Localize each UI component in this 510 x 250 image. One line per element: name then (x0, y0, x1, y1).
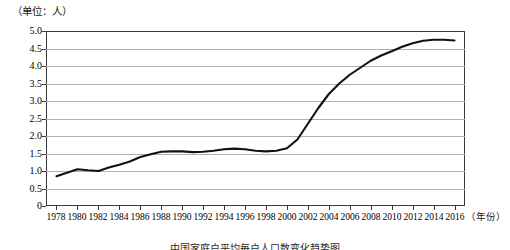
x-tick-label: 1998 (257, 212, 276, 223)
x-tick-mark (308, 206, 309, 210)
gridline (46, 119, 465, 120)
line-chart: （单位：人） 00.51.01.52.02.53.03.54.04.55.0 1… (0, 0, 510, 250)
x-axis-title: （年份） (466, 212, 506, 223)
x-tick-label: 2004 (320, 212, 339, 223)
x-tick-label: 2010 (383, 212, 402, 223)
x-tick-label: 2002 (299, 212, 318, 223)
x-tick-label: 2008 (362, 212, 381, 223)
x-tick-mark (455, 206, 456, 210)
x-tick-label: 1992 (194, 212, 213, 223)
y-tick-label: 1.0 (8, 166, 42, 176)
y-tick-label: 2.5 (8, 114, 42, 124)
x-tick-mark (245, 206, 246, 210)
y-tick-mark (42, 31, 46, 32)
gridline (46, 66, 465, 67)
x-tick-label: 1990 (173, 212, 192, 223)
x-tick-mark (56, 206, 57, 210)
x-tick-mark (161, 206, 162, 210)
x-tick-mark (98, 206, 99, 210)
gridline (46, 84, 465, 85)
x-tick-mark (77, 206, 78, 210)
y-tick-label: 3.0 (8, 96, 42, 106)
x-tick-label: 2006 (341, 212, 360, 223)
x-tick-mark (203, 206, 204, 210)
x-tick-mark (350, 206, 351, 210)
y-tick-mark (42, 206, 46, 207)
x-tick-mark (413, 206, 414, 210)
x-tick-label: 1986 (131, 212, 150, 223)
y-tick-label: 2.0 (8, 131, 42, 141)
y-tick-label: 4.5 (8, 44, 42, 54)
gridline (46, 101, 465, 102)
x-tick-mark (140, 206, 141, 210)
x-tick-mark (119, 206, 120, 210)
x-tick-label: 1980 (68, 212, 87, 223)
x-tick-label: 1996 (236, 212, 255, 223)
gridline (46, 49, 465, 50)
x-tick-label: 1994 (215, 212, 234, 223)
x-tick-mark (434, 206, 435, 210)
x-tick-mark (287, 206, 288, 210)
x-tick-label: 2000 (278, 212, 297, 223)
y-tick-label: 3.5 (8, 79, 42, 89)
gridline (46, 171, 465, 172)
y-tick-label: 0.5 (8, 184, 42, 194)
x-tick-label: 1982 (89, 212, 108, 223)
x-tick-label: 1988 (152, 212, 171, 223)
x-tick-mark (224, 206, 225, 210)
gridline (46, 154, 465, 155)
figure-caption: 中国家庭户平均每户人口数变化趋势图 (0, 240, 510, 250)
y-tick-label: 0 (8, 201, 42, 211)
y-tick-label: 5.0 (8, 26, 42, 36)
x-tick-label: 2012 (404, 212, 423, 223)
x-tick-mark (266, 206, 267, 210)
x-tick-label: 2016 (446, 212, 465, 223)
x-tick-mark (329, 206, 330, 210)
x-tick-mark (392, 206, 393, 210)
y-axis-unit-label: （单位：人） (12, 3, 72, 18)
x-tick-label: 2014 (425, 212, 444, 223)
y-tick-label: 1.5 (8, 149, 42, 159)
x-tick-mark (182, 206, 183, 210)
gridline (46, 189, 465, 190)
x-tick-label: 1984 (110, 212, 129, 223)
x-tick-label: 1978 (47, 212, 66, 223)
y-tick-label: 4.0 (8, 61, 42, 71)
gridline (46, 136, 465, 137)
x-tick-mark (371, 206, 372, 210)
